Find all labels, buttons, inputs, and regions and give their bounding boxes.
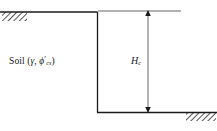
ground-hatch-top-left [2, 12, 27, 21]
ground-hatch-bottom-right [186, 112, 216, 121]
critical-height-label: Hc [131, 55, 141, 66]
soil-label-prefix: Soil ( [9, 56, 30, 66]
soil-label-suffix: ) [52, 56, 55, 66]
height-subscript: c [138, 59, 141, 66]
figure-canvas: Soil (γ, ϕ′cs) Hc [0, 0, 217, 131]
soil-properties-label: Soil (γ, ϕ′cs) [9, 55, 55, 66]
